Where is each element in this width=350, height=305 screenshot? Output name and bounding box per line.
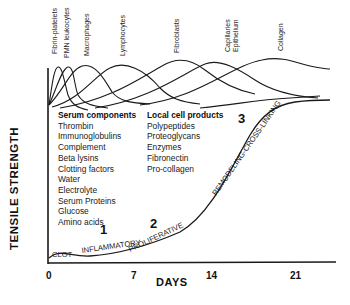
list-item: Beta lysins — [58, 153, 136, 164]
label-pmn-leukocytes: PMN leukocytes — [63, 7, 70, 58]
list-item: Proteoglycans — [147, 131, 223, 142]
list-item: Thrombin — [58, 121, 136, 132]
list-item: Complement — [58, 142, 136, 153]
label-fibrin-platelets: Fibrin-platelets — [51, 8, 58, 54]
x-tick-21: 21 — [290, 270, 301, 281]
label-fibroblasts: Fibroblasts — [173, 19, 180, 53]
list-item: Clotting factors — [58, 164, 136, 175]
x-tick-0: 0 — [46, 270, 52, 281]
list-item: Immunoglobulins — [58, 131, 136, 142]
label-collagen: Collagen — [277, 23, 284, 51]
list-item: Pro-collagen — [147, 164, 223, 175]
phase-1-number: 1 — [100, 222, 107, 237]
x-tick-7: 7 — [131, 270, 137, 281]
list-item: Enzymes — [147, 142, 223, 153]
list-item: Glucose — [58, 206, 136, 217]
list-item: Fibronectin — [147, 153, 223, 164]
y-axis-label: TENSILE STRENGTH — [8, 127, 20, 250]
curve-tail — [200, 96, 320, 108]
list-item: Electrolyte — [58, 185, 136, 196]
label-capillaries-epithelium: Capillaries Epithelium — [224, 18, 240, 52]
list-item: Amino acids — [58, 217, 136, 228]
label-macrophages: Macrophages — [83, 14, 90, 56]
local-cell-products-list: Local cell products Polypeptides Proteog… — [147, 110, 223, 174]
phase-2-number: 2 — [150, 216, 157, 231]
list-item: Water — [58, 174, 136, 185]
x-axis-label: DAYS — [156, 276, 188, 288]
phase-3-number: 3 — [238, 111, 245, 126]
label-lymphocytes: Lymphocytes — [119, 15, 126, 56]
list-item: Polypeptides — [147, 121, 223, 132]
serum-components-list: Serum components Thrombin Immunoglobulin… — [58, 110, 136, 228]
list-item: Serum Proteins — [58, 196, 136, 207]
serum-components-heading: Serum components — [58, 110, 136, 121]
curve-collagen — [140, 59, 330, 105]
local-cell-products-heading: Local cell products — [147, 110, 223, 121]
clot-label: CLOT — [52, 250, 73, 259]
x-tick-14: 14 — [206, 270, 217, 281]
cell-curves — [49, 59, 330, 110]
x-axis — [48, 262, 336, 263]
